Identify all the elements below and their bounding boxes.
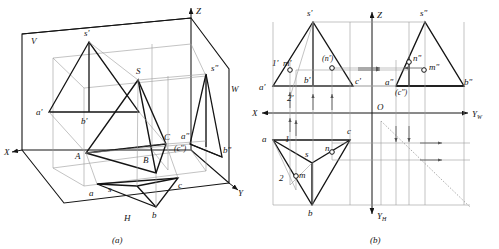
subcaptions: (a) (b) xyxy=(112,235,381,245)
label-s-a: s xyxy=(108,184,112,194)
side-view-triangle-b xyxy=(396,22,464,86)
label-1-prime-b: 1' xyxy=(272,58,280,68)
label-X-a: X xyxy=(3,147,10,157)
figure-root: V W H Z X Y s' a' b' S A B C s a b c s" … xyxy=(0,0,499,249)
label-c-dblprime-b: (c") xyxy=(395,88,408,97)
label-n-b: n xyxy=(325,143,330,153)
label-m-dblprime-b: m" xyxy=(429,62,439,72)
miter-line-45 xyxy=(381,121,470,207)
label-b-prime-b: b' xyxy=(304,75,312,85)
label-Z-b: Z xyxy=(377,10,383,20)
label-O-b: O xyxy=(377,102,384,112)
label-n-prime-b: (n') xyxy=(322,54,333,63)
label-b-b: b xyxy=(308,208,313,218)
label-a-prime-a: a' xyxy=(36,107,44,117)
space-pyramid-hidden-edge xyxy=(86,144,166,153)
label-H-a: H xyxy=(123,213,131,223)
top-view-triangle-b xyxy=(273,140,350,205)
label-c-dblprime-a: (c") xyxy=(174,144,187,153)
panel-a-group: V W H Z X Y s' a' b' S A B C s a b c s" … xyxy=(3,6,244,223)
axis-Y-a xyxy=(229,183,238,190)
labels-panel-b: s' a' b' c' 1' m' (n') 2' a b c s m n 1 … xyxy=(251,8,483,222)
label-n-dblprime-b: n" xyxy=(413,53,422,63)
label-m-prime-b: m' xyxy=(283,58,292,68)
label-2-b: 2 xyxy=(279,173,284,183)
label-a-a: a xyxy=(89,188,94,198)
marker-m-dblprime xyxy=(422,68,427,73)
label-V-a: V xyxy=(31,36,38,46)
label-s-prime-a: s' xyxy=(84,28,91,38)
label-s-b: s xyxy=(305,149,309,159)
marker-m-top xyxy=(294,174,299,179)
label-m-b: m xyxy=(299,170,306,180)
label-2-prime-b: 2' xyxy=(287,93,295,103)
label-a-prime-b: a' xyxy=(259,82,267,92)
axis-X-a xyxy=(12,150,22,152)
label-W-a: W xyxy=(231,84,240,94)
oblique-helpers-b xyxy=(273,22,313,190)
label-b-prime-a: b' xyxy=(81,116,89,126)
label-A-a: A xyxy=(74,151,81,161)
label-YH-b: YH xyxy=(377,211,387,222)
side-projection-a xyxy=(190,74,222,157)
technical-drawing-svg: V W H Z X Y s' a' b' S A B C s a b c s" … xyxy=(0,0,499,249)
subcaption-a: (a) xyxy=(112,235,123,245)
label-a-b: a xyxy=(262,134,267,144)
label-Z-a: Z xyxy=(196,6,202,16)
label-1-b: 1 xyxy=(285,134,290,144)
label-s-dblprime-a: s" xyxy=(211,63,219,73)
label-c-b: c xyxy=(347,126,351,136)
marker-n-prime xyxy=(330,66,335,71)
label-b-dblprime-b: b" xyxy=(464,77,473,87)
labels-panel-a: V W H Z X Y s' a' b' S A B C s a b c s" … xyxy=(3,6,244,223)
label-X-b: X xyxy=(251,108,258,118)
label-c-prime-b: c' xyxy=(355,76,362,86)
plane-V-top-edge xyxy=(22,18,191,34)
label-a-dblprime-a: a" xyxy=(181,131,190,141)
label-b-a: b xyxy=(152,210,157,220)
subcaption-b: (b) xyxy=(370,235,381,245)
label-B-a: B xyxy=(143,155,149,165)
label-a-dblprime-b: a" xyxy=(385,77,394,87)
label-s-prime-b: s' xyxy=(307,8,314,18)
front-projection-triangle-a xyxy=(49,42,139,112)
marker-m-prime xyxy=(288,68,293,73)
panel-b-group: s' a' b' c' 1' m' (n') 2' a b c s m n 1 … xyxy=(251,8,483,222)
label-b-dblprime-a: b" xyxy=(223,145,232,155)
label-Y-a: Y xyxy=(238,188,244,198)
marker-n-dblprime xyxy=(407,60,412,65)
label-S-a: S xyxy=(136,66,141,76)
label-C-a: C xyxy=(164,132,171,142)
label-c-a: c xyxy=(178,180,182,190)
label-s-dblprime-b: s" xyxy=(420,8,428,18)
marker-n-top xyxy=(330,150,335,155)
label-YW-b: YW xyxy=(472,109,483,120)
plane-V xyxy=(22,18,191,150)
